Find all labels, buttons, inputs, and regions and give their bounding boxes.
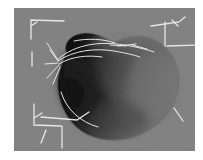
- render-canvas[interactable]: [14, 8, 195, 151]
- viewport-3d-render[interactable]: [14, 8, 195, 151]
- film-grain-overlay: [14, 8, 195, 151]
- screenshot-root: [0, 0, 203, 160]
